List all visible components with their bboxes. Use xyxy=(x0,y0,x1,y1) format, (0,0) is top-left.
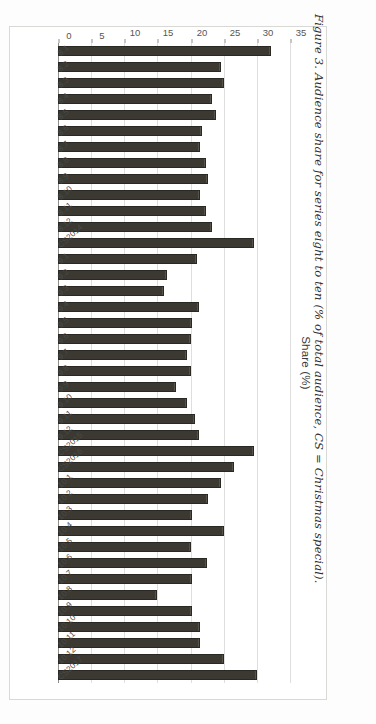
gridline-35 xyxy=(290,43,291,683)
figure-page: Share (%) 05101520253035 8.18.28.38.48.5… xyxy=(0,0,376,724)
tick-mark-35 xyxy=(291,39,292,43)
tick-label-10: 10 xyxy=(130,27,141,38)
tick-mark-5 xyxy=(92,39,93,43)
tick-label-20: 20 xyxy=(196,27,207,38)
bar-chart: Share (%) 05101520253035 8.18.28.38.48.5… xyxy=(10,27,326,699)
category-axis-labels: 8.18.28.38.48.58.68.78.88.98.108.118.12C… xyxy=(12,43,58,683)
tick-mark-0 xyxy=(59,39,60,43)
chart-figure-frame: Share (%) 05101520253035 8.18.28.38.48.5… xyxy=(9,26,327,700)
tick-label-0: 0 xyxy=(66,30,71,41)
tick-mark-20 xyxy=(191,39,192,43)
value-axis-ticks: 05101520253035 xyxy=(58,43,290,683)
figure-caption-text: Figure 3. Audience share for series eigh… xyxy=(312,14,326,584)
tick-mark-10 xyxy=(125,39,126,43)
tick-label-25: 25 xyxy=(229,27,240,38)
chart-rotation-wrapper: Share (%) 05101520253035 8.18.28.38.48.5… xyxy=(10,27,326,699)
tick-mark-25 xyxy=(224,39,225,43)
figure-caption: Figure 3. Audience share for series eigh… xyxy=(302,0,336,724)
tick-mark-15 xyxy=(158,39,159,43)
tick-mark-30 xyxy=(257,39,258,43)
tick-label-5: 5 xyxy=(99,30,104,41)
tick-label-30: 30 xyxy=(263,27,274,38)
tick-label-15: 15 xyxy=(163,27,174,38)
